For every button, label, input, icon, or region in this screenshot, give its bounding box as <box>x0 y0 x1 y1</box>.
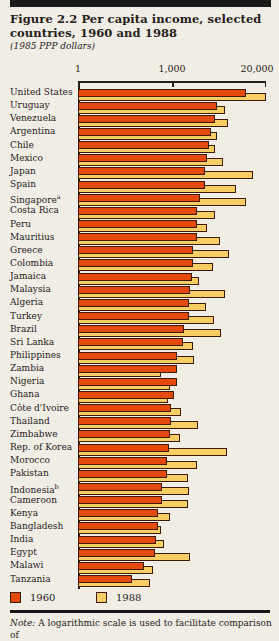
country-label: Greece <box>10 245 43 256</box>
country-label: Indonesiab <box>10 482 59 496</box>
axis-tick-label: 20,000 <box>240 63 273 74</box>
note-label: Note: <box>10 618 35 628</box>
bar-1960 <box>78 483 162 491</box>
bar-1960 <box>78 220 197 228</box>
country-label: Tanzania <box>10 574 51 585</box>
country-label: United States <box>10 87 73 98</box>
bar-1960 <box>78 509 158 517</box>
bar-1960 <box>78 522 158 530</box>
bar-1960 <box>78 207 197 215</box>
bar-1960 <box>78 259 193 267</box>
bar-1960 <box>78 470 167 478</box>
bar-1960 <box>78 325 184 333</box>
country-label: Mauritius <box>10 232 54 243</box>
country-label: Thailand <box>10 416 50 427</box>
bar-1960 <box>78 365 177 373</box>
country-label: Malawi <box>10 560 43 571</box>
country-label: Japan <box>10 166 36 177</box>
bar-1960 <box>78 338 183 346</box>
axis-tick-label: 1 <box>75 63 81 74</box>
bar-1960 <box>78 549 155 557</box>
country-label: Malaysia <box>10 284 51 295</box>
country-label: Uruguay <box>10 100 50 111</box>
country-label: Spain <box>10 179 36 190</box>
country-label: Turkey <box>10 311 42 322</box>
country-label: Mexico <box>10 153 43 164</box>
bar-1960 <box>78 562 144 570</box>
legend-swatch-1960 <box>10 592 21 603</box>
country-label: India <box>10 534 33 545</box>
bar-1960 <box>78 167 205 175</box>
bar-1960 <box>78 128 211 136</box>
country-label: Costa Rica <box>10 205 59 216</box>
axis-tick-mark <box>78 81 80 87</box>
bar-1960 <box>78 89 246 97</box>
country-label: Colombia <box>10 258 53 269</box>
country-label: Egypt <box>10 547 37 558</box>
bar-1960 <box>78 273 192 281</box>
country-label: Morocco <box>10 455 50 466</box>
bar-1960 <box>78 457 167 465</box>
axis-tick-mark <box>265 81 267 87</box>
country-label: Ghana <box>10 389 40 400</box>
bar-1960 <box>78 430 170 438</box>
bar-1960 <box>78 378 177 386</box>
chart-legend: 1960 1988 <box>10 591 270 605</box>
bar-1960 <box>78 496 162 504</box>
country-label: Peru <box>10 219 31 230</box>
country-label: Argentina <box>10 126 55 137</box>
country-label: Kenya <box>10 508 38 519</box>
legend-item-1988: 1988 <box>96 591 166 605</box>
legend-label-1988: 1988 <box>116 591 141 605</box>
country-label: Chile <box>10 140 34 151</box>
country-label: Côte d'Ivoire <box>10 403 69 414</box>
country-label: Venezuela <box>10 113 56 124</box>
legend-item-1960: 1960 <box>10 591 80 605</box>
bar-1960 <box>78 181 205 189</box>
bar-1960 <box>78 536 156 544</box>
country-label: Bangladesh <box>10 521 63 532</box>
bar-1960 <box>78 575 132 583</box>
country-label: Cameroon <box>10 495 57 506</box>
bar-1960 <box>78 352 177 360</box>
note-text: A logarithmic scale is used to facilitat… <box>10 618 272 640</box>
axis-tick-mark <box>172 81 174 87</box>
country-label: Nigeria <box>10 376 44 387</box>
bar-1960 <box>78 246 193 254</box>
bar-1960 <box>78 417 171 425</box>
bar-1960 <box>78 444 169 452</box>
country-label: Zambia <box>10 363 44 374</box>
country-label: Rep. of Korea <box>10 442 72 453</box>
axis-tick-label: 1,000 <box>158 63 185 74</box>
country-label: Algeria <box>10 297 43 308</box>
bar-1960 <box>78 233 197 241</box>
legend-swatch-1988 <box>96 592 107 603</box>
bar-1960 <box>78 404 171 412</box>
country-label: Pakistan <box>10 468 49 479</box>
country-label: Philippines <box>10 350 61 361</box>
bar-1960 <box>78 299 189 307</box>
bar-1960 <box>78 312 189 320</box>
bar-1960 <box>78 391 174 399</box>
country-label: Brazil <box>10 324 37 335</box>
country-label: Jamaica <box>10 271 46 282</box>
legend-label-1960: 1960 <box>30 591 55 605</box>
bar-1960 <box>78 194 200 202</box>
bar-1960 <box>78 115 215 123</box>
bar-1960 <box>78 102 217 110</box>
bar-1960 <box>78 286 190 294</box>
country-label: Zimbabwe <box>10 429 58 440</box>
country-label: Singaporea <box>10 192 61 206</box>
bar-1960 <box>78 154 207 162</box>
figure-note: Note: A logarithmic scale is used to fac… <box>10 618 274 641</box>
bar-1960 <box>78 141 209 149</box>
bottom-rule <box>10 610 270 613</box>
country-label: Sri Lanka <box>10 337 54 348</box>
